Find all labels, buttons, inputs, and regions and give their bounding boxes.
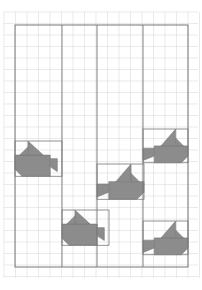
fish-tail <box>97 228 104 241</box>
fish-tail <box>143 240 154 252</box>
fish-tail <box>143 148 154 160</box>
quilt-diagram <box>0 0 202 290</box>
fish-tail <box>97 184 109 197</box>
fish-fin <box>67 216 75 224</box>
fish-fin <box>176 230 184 238</box>
fish-body <box>109 182 144 200</box>
fish-body <box>62 224 97 245</box>
fish-body <box>154 146 188 163</box>
fish-body <box>15 155 50 176</box>
fish-fin <box>161 129 176 146</box>
fish-fin <box>75 210 90 224</box>
fish-fin <box>176 138 184 146</box>
fish-fin <box>131 173 139 181</box>
fish-body <box>154 238 188 255</box>
fish-fin <box>20 147 28 155</box>
fish-fin <box>28 141 43 155</box>
fish-fin <box>161 221 176 238</box>
fish-tail <box>50 159 57 172</box>
